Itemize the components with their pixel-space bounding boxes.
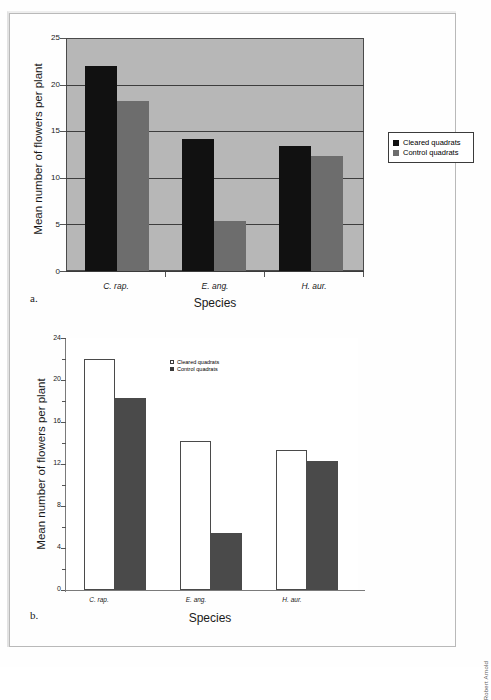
chart-a-ytick-5: 5: [40, 220, 60, 229]
chart-b-ytick-16: 16: [45, 417, 61, 424]
chart-b-ytick-4: 4: [45, 543, 61, 550]
chart-b-tick-24: [61, 338, 66, 339]
filled-dark-square-icon: [170, 367, 174, 371]
bar-cleared-h-aur: [276, 450, 307, 590]
image-credit: Robert Arnold: [483, 661, 489, 700]
chart-b-ytick-0: 0: [45, 585, 61, 592]
chart-a-xtick-h-aur: H. aur.: [274, 281, 354, 291]
chart-b-minortick-18: [62, 401, 66, 402]
chart-b-minortick-10: [62, 485, 66, 486]
chart-b-tick-16: [61, 422, 66, 423]
chart-b-ytick-24: 24: [45, 334, 61, 341]
chart-b-minortick-22: [62, 359, 66, 360]
bar-control-c-rap: [117, 101, 149, 271]
bar-control-h-aur: [311, 156, 343, 271]
chart-a-ytick-25: 25: [40, 33, 60, 42]
bar-cleared-c-rap: [85, 66, 117, 271]
chart-b-legend: Cleared quadrats Control quadrats: [170, 358, 219, 373]
chart-a-ytick-10: 10: [40, 173, 60, 182]
chart-a-xtick-c-rap: C. rap.: [76, 281, 156, 291]
chart-a-legend-row-cleared: Cleared quadrats: [393, 138, 469, 147]
chart-a-x-axis: [66, 271, 364, 272]
chart-a: Mean number of flowers per plant 25 20 1…: [0, 0, 491, 320]
filled-black-square-icon: [393, 140, 399, 146]
chart-b-legend-row-cleared: Cleared quadrats: [170, 359, 219, 365]
chart-b-minortick-2: [62, 569, 66, 570]
chart-b-minortick-6: [62, 527, 66, 528]
chart-b: Mean number of flowers per plant 24 20 1…: [0, 330, 491, 667]
bar-cleared-h-aur: [279, 146, 311, 271]
chart-b-tick-20: [61, 380, 66, 381]
chart-a-y-axis-label: Mean number of flowers per plant: [32, 49, 44, 249]
chart-b-legend-row-control: Control quadrats: [170, 366, 219, 372]
panel-label-a: a.: [30, 292, 38, 304]
bar-control-c-rap: [115, 398, 146, 590]
chart-b-ytick-20: 20: [45, 375, 61, 382]
chart-b-tick-8: [61, 506, 66, 507]
chart-b-x-axis-label: Species: [160, 611, 260, 625]
bar-cleared-c-rap: [84, 359, 115, 590]
chart-b-xtick-c-rap: C. rap.: [64, 596, 134, 603]
chart-a-xtickmark-2: [264, 272, 265, 277]
chart-a-ytick-15: 15: [40, 126, 60, 135]
chart-b-ytick-8: 8: [45, 501, 61, 508]
chart-b-tick-4: [61, 548, 66, 549]
chart-a-legend-label-control: Control quadrats: [403, 148, 458, 157]
chart-a-ytick-20: 20: [40, 80, 60, 89]
bar-control-e-ang: [211, 533, 242, 590]
chart-b-xtick-e-ang: E. ang.: [161, 596, 231, 603]
chart-b-xtick-h-aur: H. aur.: [257, 596, 327, 603]
chart-b-y-axis: [65, 338, 66, 592]
bar-control-e-ang: [214, 221, 246, 271]
chart-a-xtick-e-ang: E. ang.: [175, 281, 255, 291]
chart-b-ytick-12: 12: [45, 459, 61, 466]
chart-b-x-axis: [65, 590, 365, 591]
chart-a-xtickmark-1: [165, 272, 166, 277]
chart-b-legend-label-control: Control quadrats: [177, 366, 218, 372]
bar-control-h-aur: [307, 461, 338, 590]
chart-a-x-axis-label: Species: [165, 296, 265, 310]
chart-a-xtickmark-3: [363, 272, 364, 277]
chart-b-legend-label-cleared: Cleared quadrats: [177, 359, 219, 365]
bar-cleared-e-ang: [180, 441, 211, 590]
bar-cleared-e-ang: [182, 139, 214, 271]
chart-a-legend: Cleared quadrats Control quadrats: [388, 132, 474, 163]
chart-b-minortick-14: [62, 443, 66, 444]
chart-a-legend-label-cleared: Cleared quadrats: [403, 138, 461, 147]
chart-a-ytick-0: 0: [40, 267, 60, 276]
open-square-icon: [170, 360, 174, 364]
chart-b-tick-12: [61, 464, 66, 465]
panel-label-b: b.: [30, 609, 38, 621]
chart-a-legend-row-control: Control quadrats: [393, 148, 469, 157]
chart-a-tick-25: [60, 38, 66, 39]
filled-gray-square-icon: [393, 150, 399, 156]
